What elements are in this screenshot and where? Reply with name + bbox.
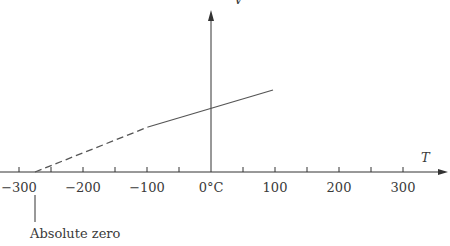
tick-label: 300 — [391, 180, 416, 195]
diagram-canvas — [0, 0, 450, 246]
x-axis-label: T — [421, 150, 430, 165]
extrapolated-line — [35, 127, 148, 172]
absolute-zero-annotation: Absolute zero — [30, 226, 120, 241]
tick-label: −100 — [129, 180, 165, 195]
x-axis-arrow-icon — [438, 169, 448, 175]
tick-label: 0°C — [199, 180, 224, 195]
tick-label: −300 — [1, 180, 37, 195]
y-axis-label: V — [234, 0, 243, 7]
tick-label: 100 — [263, 180, 288, 195]
tick-label: 200 — [327, 180, 352, 195]
volume-temperature-diagram: V T −300 −200 −100 0°C 100 200 300 Absol… — [0, 0, 450, 246]
y-axis-arrow-icon — [208, 10, 214, 21]
tick-label: −200 — [65, 180, 101, 195]
